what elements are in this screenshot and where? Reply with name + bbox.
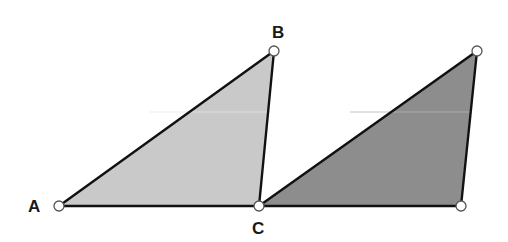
label-a: A bbox=[28, 197, 40, 216]
geometry-diagram: A B C bbox=[0, 0, 508, 242]
label-b: B bbox=[272, 23, 284, 42]
vertex-d[interactable] bbox=[472, 46, 482, 56]
label-c: C bbox=[252, 219, 264, 238]
vertex-b[interactable] bbox=[269, 46, 279, 56]
vertex-a[interactable] bbox=[54, 201, 64, 211]
vertex-e[interactable] bbox=[456, 201, 466, 211]
vertex-c[interactable] bbox=[254, 201, 264, 211]
